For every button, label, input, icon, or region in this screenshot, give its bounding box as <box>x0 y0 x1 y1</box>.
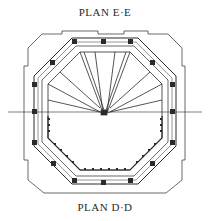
roof-trusses <box>48 52 162 113</box>
plan-d-d-label: PLAN D·D <box>0 201 210 213</box>
dentils <box>48 118 162 170</box>
octagonal-plan-drawing <box>0 0 210 221</box>
lower-gallery <box>48 116 162 170</box>
